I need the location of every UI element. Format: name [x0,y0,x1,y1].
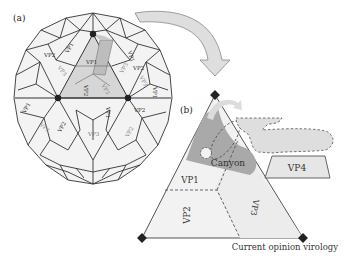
capsid-label: VP2 [43,52,55,58]
region-vp1-label: VP1 [180,175,198,185]
capsid-label: VP1 [105,106,111,118]
capsid-label: VP2 [132,65,144,71]
panel-a-label: (a) [13,13,25,23]
capsid-label: VP1 [85,59,97,65]
capsid-label: VP2 [83,84,89,96]
capsid-label: VP3 [87,131,100,137]
panel-b-label: (b) [180,105,193,115]
capsid-label: VP2 [133,107,145,113]
figure: (a) [0,0,346,264]
caption: Current opinion virology [232,242,338,252]
capsid-label: VP1 [152,86,158,98]
region-vp2-label: VP2 [182,206,192,224]
capsid-icosahedron [14,13,172,184]
canyon-label: Canyon [211,158,246,168]
vp4-label: VP4 [287,163,307,173]
